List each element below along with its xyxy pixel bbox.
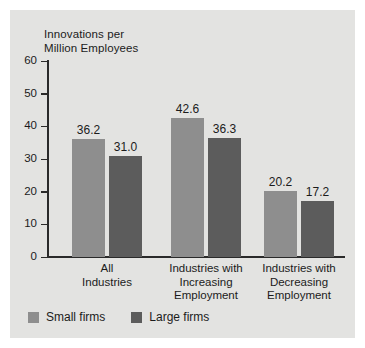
x-axis-category-label: All Industries xyxy=(52,262,162,289)
y-axis-line xyxy=(47,60,49,258)
legend-item: Small firms xyxy=(28,310,105,324)
y-axis-tick xyxy=(41,224,47,226)
y-axis-tick-label: 40 xyxy=(9,119,37,131)
bar xyxy=(72,139,105,257)
legend-label: Large firms xyxy=(149,310,209,324)
plot-area: 0102030405060 36.231.042.636.320.217.2 A… xyxy=(10,10,355,338)
chart-legend: Small firmsLarge firms xyxy=(28,310,235,324)
legend-swatch-icon xyxy=(28,312,39,323)
bar xyxy=(208,138,241,257)
y-axis-tick xyxy=(41,61,47,63)
y-axis-tick-label: 30 xyxy=(9,152,37,164)
y-axis-tick xyxy=(41,159,47,161)
legend-label: Small firms xyxy=(46,310,105,324)
legend-item: Large firms xyxy=(131,310,209,324)
x-axis-category-label: Industries with Decreasing Employment xyxy=(244,262,354,303)
bar-value-label: 36.3 xyxy=(202,122,247,136)
chart-panel: Innovations per Million Employees 010203… xyxy=(10,10,355,338)
y-axis-tick xyxy=(41,93,47,95)
y-axis-tick-label: 10 xyxy=(9,217,37,229)
bar xyxy=(264,191,297,257)
y-axis-tick-label: 0 xyxy=(9,250,37,262)
legend-swatch-icon xyxy=(131,312,142,323)
bar xyxy=(109,156,142,257)
bar-value-label: 17.2 xyxy=(295,185,340,199)
bar-value-label: 31.0 xyxy=(103,140,148,154)
y-axis-tick-label: 50 xyxy=(9,87,37,99)
y-axis-tick-label: 20 xyxy=(9,185,37,197)
bar xyxy=(301,201,334,257)
bar-value-label: 42.6 xyxy=(165,102,210,116)
bar-value-label: 36.2 xyxy=(66,123,111,137)
y-axis-tick-label: 60 xyxy=(9,54,37,66)
y-axis-tick xyxy=(41,191,47,193)
y-axis-tick xyxy=(41,126,47,128)
bar xyxy=(171,118,204,257)
y-axis-tick xyxy=(41,257,47,259)
